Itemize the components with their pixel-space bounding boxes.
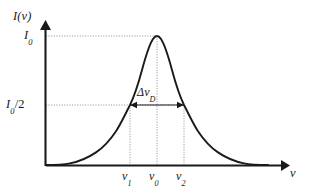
y-axis-arrowhead xyxy=(40,20,51,30)
peak-intensity-subscript: 0 xyxy=(28,37,32,47)
x-axis-label: ν xyxy=(290,167,296,180)
half-intensity-subscript: 0 xyxy=(10,106,14,116)
half-intensity-label: I0/2 xyxy=(6,98,25,111)
y-axis-label: I(ν) xyxy=(13,10,31,23)
peak-intensity-label: I0 xyxy=(24,29,33,42)
nu1-subscript: 1 xyxy=(127,179,131,188)
tick-label-nu1: ν1 xyxy=(122,170,132,182)
tick-label-nu0: ν0 xyxy=(149,170,159,182)
x-axis xyxy=(46,160,290,171)
nu2-subscript: 2 xyxy=(181,179,185,188)
nu0-subscript: 0 xyxy=(154,179,158,188)
guide-lines xyxy=(46,36,184,165)
fwhm-subscript: D xyxy=(150,95,156,104)
half-intensity-divisor: /2 xyxy=(15,97,25,111)
tick-label-nu2: ν2 xyxy=(176,170,186,182)
fwhm-symbol: Δν xyxy=(137,85,150,99)
doppler-line-profile-figure: I(ν) I0 I0/2 ν1 ν0 ν2 ΔνD ν xyxy=(0,0,309,189)
x-axis-arrowhead xyxy=(281,160,290,171)
y-axis xyxy=(40,20,51,166)
fwhm-label: ΔνD xyxy=(137,86,156,98)
